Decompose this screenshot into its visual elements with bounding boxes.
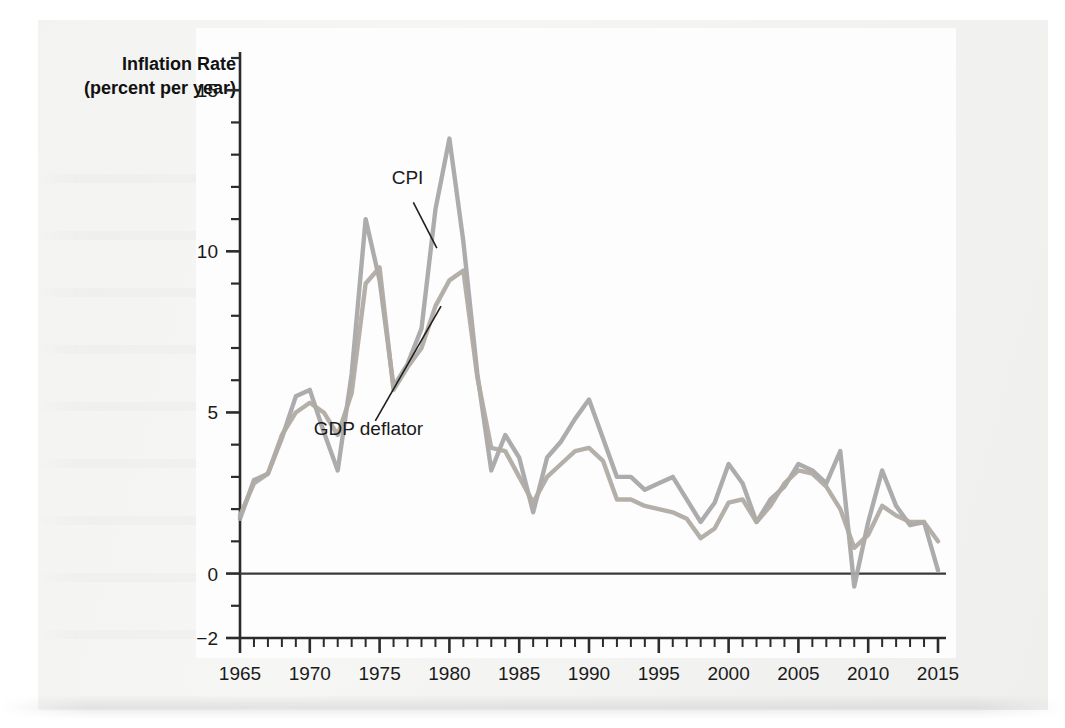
annotation-label-cpi: CPI [392,167,424,188]
x-axis: 1965197019751980198519901995200020052010… [219,638,959,684]
y-axis-title-line1: Inflation Rate [122,54,236,74]
y-tick-label: 5 [207,402,218,423]
x-tick-label: 1965 [219,663,261,684]
x-tick-label: 1990 [568,663,610,684]
x-tick-label: 2010 [847,663,889,684]
x-tick-label: 1995 [638,663,680,684]
x-tick-label: 2000 [707,663,749,684]
x-tick-label: 1975 [358,663,400,684]
data-series-group[interactable] [240,139,938,587]
inflation-rate-line-chart[interactable]: Inflation Rate (percent per year) −20510… [0,0,1065,728]
annotation-label-gdp-deflator: GDP deflator [314,418,424,439]
series-line-cpi[interactable] [240,139,938,587]
y-tick-label: 15 [197,80,218,101]
y-tick-label: 0 [207,564,218,585]
x-tick-label: 1970 [289,663,331,684]
chart-canvas: Inflation Rate (percent per year) −20510… [0,0,1065,728]
series-line-gdp-deflator[interactable] [240,267,938,547]
y-tick-label: 10 [197,241,218,262]
x-tick-label: 2015 [917,663,959,684]
x-tick-label: 2005 [777,663,819,684]
series-annotations: CPIGDP deflator [314,167,441,439]
y-tick-label: −2 [196,628,218,649]
x-tick-label: 1985 [498,663,540,684]
x-tick-label: 1980 [428,663,470,684]
y-axis: −2051015 [196,52,240,649]
